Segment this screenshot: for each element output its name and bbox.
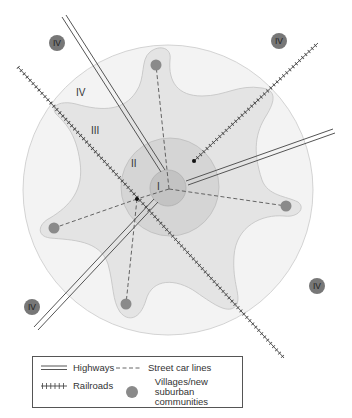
- legend-item-streetcar: Street car lines: [116, 363, 211, 373]
- badge-iv-nw: IV: [49, 35, 65, 51]
- rail-stop-ne: [192, 159, 196, 163]
- railroad-symbol-icon: [41, 382, 67, 390]
- rail-stop-w: [135, 197, 139, 201]
- legend-label-villages-line2: suburban communities: [155, 387, 242, 407]
- svg-text:IV: IV: [28, 302, 36, 312]
- svg-text:IV: IV: [313, 281, 321, 291]
- legend: Highways Railroads Street car lines Vill…: [32, 356, 243, 408]
- zone-label-iii: III: [91, 125, 99, 136]
- village-north: [151, 60, 162, 71]
- legend-item-railroads: Railroads: [41, 381, 113, 391]
- legend-label-streetcar: Street car lines: [148, 363, 211, 373]
- zone-label-ii: II: [131, 158, 137, 169]
- village-southwest: [121, 299, 132, 310]
- highway-symbol-icon: [41, 364, 67, 372]
- svg-text:IV: IV: [275, 36, 283, 46]
- badge-iv-ne: IV: [271, 33, 287, 49]
- zone-label-iv: IV: [76, 87, 86, 98]
- village-symbol-icon: [125, 385, 138, 399]
- legend-item-highways: Highways: [41, 363, 114, 373]
- legend-label-highways: Highways: [73, 363, 114, 373]
- legend-item-villages: Villages/new suburban communities: [125, 377, 242, 407]
- legend-label-railroads: Railroads: [73, 381, 113, 391]
- legend-label-villages: Villages/new suburban communities: [155, 377, 242, 407]
- badge-iv-sw: IV: [24, 299, 40, 315]
- zone-label-i: I: [157, 181, 160, 192]
- village-west: [49, 223, 60, 234]
- svg-text:IV: IV: [53, 38, 61, 48]
- village-east: [281, 201, 292, 212]
- streetcar-symbol-icon: [116, 364, 142, 372]
- badge-iv-se: IV: [309, 278, 325, 294]
